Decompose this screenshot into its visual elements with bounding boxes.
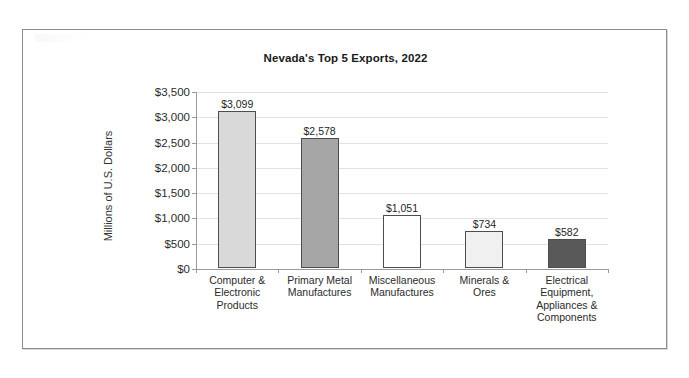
- y-tick-label: $3,000: [155, 111, 190, 123]
- y-tick-label: $1,000: [155, 212, 190, 224]
- x-tick-mark: [608, 269, 609, 273]
- x-category-label-line: Electronic: [209, 286, 265, 298]
- bar-chart: Nevada's Top 5 Exports, 2022 Millions of…: [23, 30, 668, 348]
- x-category-label-line: Computer &: [209, 274, 265, 286]
- x-axis-line: [196, 269, 608, 270]
- y-tick-label: $3,500: [155, 86, 190, 98]
- y-tick-label: $0: [177, 263, 190, 275]
- x-category-label: ElectricalEquipment,Appliances &Componen…: [536, 274, 597, 324]
- bar-value-label: $2,578: [304, 125, 336, 137]
- x-category-label-line: Equipment,: [536, 286, 597, 298]
- bar: [548, 239, 586, 268]
- x-category-label: MiscellaneousManufactures: [369, 274, 436, 299]
- gridline: [196, 92, 608, 93]
- bar-value-label: $3,099: [221, 98, 253, 110]
- x-category-label-line: Manufactures: [369, 286, 436, 298]
- x-category-label: Computer &ElectronicProducts: [209, 274, 265, 311]
- x-category-label-line: Miscellaneous: [369, 274, 436, 286]
- bar: [465, 231, 503, 268]
- x-category-label: Minerals &Ores: [460, 274, 510, 299]
- x-category-label-line: Minerals &: [460, 274, 510, 286]
- x-category-label-line: Components: [536, 311, 597, 323]
- gridline: [196, 193, 608, 194]
- y-tick-label: $1,500: [155, 187, 190, 199]
- chart-title: Nevada's Top 5 Exports, 2022: [23, 52, 668, 64]
- y-tick-label: $2,000: [155, 162, 190, 174]
- gridline: [196, 117, 608, 118]
- x-category-label-line: Primary Metal: [287, 274, 352, 286]
- plot-area: $3,500$3,000$2,500$2,000$1,500$1,000$500…: [196, 92, 608, 269]
- x-category-label-line: Manufactures: [287, 286, 352, 298]
- y-tick-label: $2,500: [155, 137, 190, 149]
- x-category-label-line: Electrical: [536, 274, 597, 286]
- bar: [218, 111, 256, 268]
- y-axis-line: [196, 92, 197, 270]
- x-category-label-line: Appliances &: [536, 299, 597, 311]
- bar-value-label: $734: [473, 218, 496, 230]
- bar-value-label: $582: [555, 226, 578, 238]
- y-axis-title: Millions of U.S. Dollars: [102, 96, 114, 276]
- bar: [383, 215, 421, 268]
- chart-page-frame: Nevada's Top 5 Exports, 2022 Millions of…: [22, 29, 667, 349]
- gridline: [196, 143, 608, 144]
- x-category-label-line: Ores: [460, 286, 510, 298]
- x-category-label: Primary MetalManufactures: [287, 274, 352, 299]
- gridline: [196, 168, 608, 169]
- y-tick-label: $500: [164, 238, 190, 250]
- x-category-label-line: Products: [209, 299, 265, 311]
- bar-value-label: $1,051: [386, 202, 418, 214]
- bar: [301, 138, 339, 268]
